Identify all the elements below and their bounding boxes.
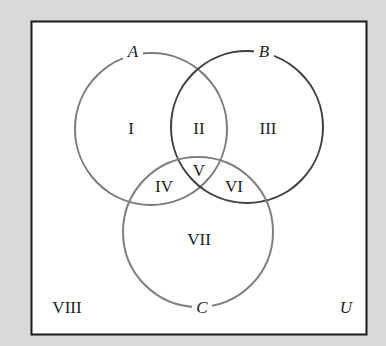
region-label-i: I [128, 119, 134, 138]
region-label-ii: II [193, 119, 205, 138]
region-label-vi: VI [225, 177, 243, 196]
region-label-iv: IV [155, 177, 174, 196]
venn-diagram: A B C U I II III IV V VI VII VIII [0, 0, 386, 346]
region-label-vii: VII [187, 230, 211, 249]
universe-label: U [340, 298, 354, 317]
set-label-a: A [127, 42, 139, 61]
region-label-viii: VIII [52, 298, 82, 317]
region-label-v: V [193, 161, 206, 180]
set-label-c: C [196, 298, 208, 317]
set-label-b: B [259, 42, 270, 61]
region-label-iii: III [260, 119, 277, 138]
